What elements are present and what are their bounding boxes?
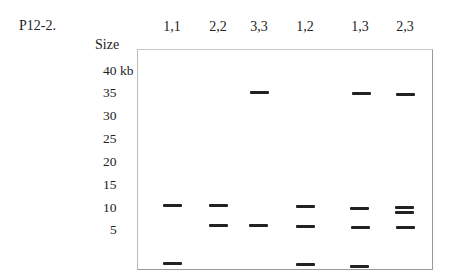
- size-axis-label: Size: [95, 37, 119, 53]
- gel-box: [137, 49, 433, 270]
- dna-band: [396, 93, 415, 96]
- lane-label: 2,2: [198, 19, 238, 35]
- dna-band: [351, 226, 370, 229]
- dna-band: [209, 224, 228, 227]
- dna-band: [395, 211, 414, 214]
- dna-band: [296, 205, 315, 208]
- dna-band: [249, 224, 268, 227]
- dna-band: [250, 91, 269, 94]
- lane-label: 2,3: [385, 19, 425, 35]
- dna-band: [395, 206, 414, 209]
- dna-band: [352, 92, 371, 95]
- dna-band: [350, 265, 369, 268]
- figure-title: P12-2.: [19, 18, 56, 34]
- dna-band: [396, 226, 415, 229]
- lane-label: 3,3: [239, 19, 279, 35]
- dna-band: [296, 225, 315, 228]
- dna-band: [163, 204, 182, 207]
- dna-band: [163, 262, 182, 265]
- dna-band: [296, 263, 315, 266]
- lane-label: 1,3: [340, 19, 380, 35]
- dna-band: [350, 207, 369, 210]
- dna-band: [209, 204, 228, 207]
- lane-label: 1,1: [152, 19, 192, 35]
- lane-label: 1,2: [285, 19, 325, 35]
